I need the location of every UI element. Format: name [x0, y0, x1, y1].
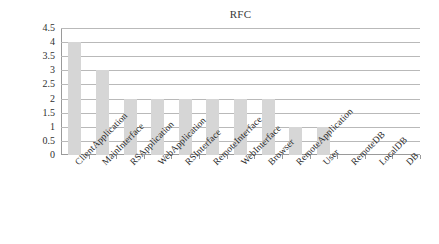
y-axis-tick-label: 2 — [15, 94, 55, 104]
gridline — [61, 28, 420, 29]
gridline — [61, 42, 420, 43]
y-axis-tick-label: 4 — [15, 37, 55, 47]
y-axis-tick-label: 2.5 — [15, 79, 55, 89]
y-axis-tick-label: 0 — [15, 150, 55, 160]
gridline — [61, 56, 420, 57]
chart-title: RFC — [61, 8, 420, 20]
y-axis-tick-label: 3.5 — [15, 51, 55, 61]
gridline — [61, 70, 420, 71]
bar — [68, 42, 81, 155]
gridline — [61, 84, 420, 85]
y-axis-tick-label: 1 — [15, 122, 55, 132]
y-axis-tick-label: 3 — [15, 65, 55, 75]
rfc-bar-chart: RFC 00.511.522.533.544.5 ClientApplicati… — [0, 0, 439, 244]
y-axis-tick-label: 1.5 — [15, 108, 55, 118]
y-axis-tick-label: 4.5 — [15, 23, 55, 33]
y-axis-tick-label: 0.5 — [15, 136, 55, 146]
